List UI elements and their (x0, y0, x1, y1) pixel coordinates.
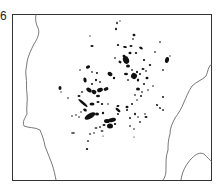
cluster-patch (152, 85, 154, 87)
cluster-patch (87, 140, 89, 142)
cluster-patch (114, 123, 116, 125)
cluster-patch (141, 91, 143, 93)
cluster-patch (136, 99, 138, 101)
cluster-patch (91, 71, 93, 73)
cluster-patch (115, 28, 117, 31)
cluster-patch (80, 111, 82, 113)
cluster-patch (143, 59, 145, 61)
cluster-patch (79, 69, 81, 71)
cluster-patch (132, 33, 136, 36)
cluster-patch (96, 72, 98, 74)
cluster-patch (149, 64, 151, 66)
cluster-patch (116, 105, 120, 108)
cluster-patch (97, 101, 100, 103)
cluster-patch (162, 96, 164, 98)
cluster-patch (102, 112, 104, 114)
cluster-patch (123, 46, 127, 49)
cluster-patch (124, 73, 128, 75)
cluster-patch (143, 83, 145, 85)
cluster-patch (91, 89, 97, 94)
cluster-patch (127, 79, 129, 81)
cluster-patch (81, 91, 83, 93)
map (0, 0, 217, 185)
cluster-patch (96, 95, 100, 98)
cluster-patch (169, 55, 170, 56)
cluster-patch (126, 65, 130, 68)
cluster-patch (145, 116, 148, 118)
cluster-patch (117, 113, 119, 115)
cluster-patch (159, 107, 162, 109)
cluster-patch (142, 68, 145, 70)
cluster-patch (89, 35, 90, 37)
cluster-patch (67, 97, 69, 99)
cluster-patch (89, 133, 91, 135)
cluster-patch (90, 45, 93, 47)
cluster-patch (99, 81, 101, 83)
cluster-patch (115, 107, 121, 113)
cluster-patch (99, 126, 101, 128)
cluster-patch (83, 77, 87, 83)
cluster-patch (59, 86, 62, 90)
cluster-patch (101, 103, 103, 105)
cluster-patch (93, 132, 95, 133)
cluster-patch (144, 113, 146, 115)
cluster-patch (60, 91, 61, 93)
left-coastline (23, 14, 56, 180)
cluster-patch (131, 103, 133, 105)
cluster-patch (103, 124, 106, 126)
cluster-patch (78, 116, 80, 117)
cluster-patch (75, 114, 77, 115)
cluster-patch (136, 71, 138, 73)
cluster-patch (113, 77, 115, 79)
cluster-patch (130, 45, 133, 47)
cluster-patch (136, 88, 140, 91)
cluster-patch (101, 130, 104, 132)
cluster-patch (90, 103, 95, 106)
cluster-patch (154, 51, 156, 53)
cluster-patch (116, 22, 118, 24)
cluster-patch (95, 79, 97, 81)
cluster-patch (78, 95, 81, 97)
cluster-patch (131, 69, 133, 71)
cluster-patch (103, 87, 109, 92)
cluster-patch (126, 106, 129, 109)
cluster-patch (96, 87, 103, 93)
cluster-patch (118, 60, 122, 64)
cluster-patch (129, 117, 131, 119)
cluster-patch (129, 52, 132, 54)
cluster-patch (117, 44, 119, 46)
cluster-patch (162, 109, 164, 112)
cluster-patch (133, 128, 135, 129)
cluster-patch (107, 103, 109, 104)
bottom-right-coastline (181, 153, 212, 180)
cluster-patch (91, 83, 93, 85)
cluster-patch (129, 125, 131, 127)
cluster-patch (85, 87, 92, 94)
cluster-patch (156, 104, 159, 107)
right-coastline (163, 64, 212, 180)
cluster-patch (86, 148, 88, 150)
cluster-patch (133, 136, 134, 137)
cluster-patch (139, 121, 141, 123)
cluster-patch (135, 52, 137, 54)
cluster-patch (83, 108, 88, 112)
cluster-patch (139, 46, 144, 50)
cluster-patch (85, 65, 90, 69)
cluster-patch (114, 57, 116, 59)
cluster-patch (145, 70, 147, 72)
cluster-patch (107, 124, 113, 129)
cluster-patch (159, 41, 161, 42)
cluster-patch (134, 113, 136, 115)
cluster-patch (107, 71, 114, 77)
cluster-patch (162, 69, 164, 71)
cluster-patch (95, 113, 99, 116)
cluster-patch (146, 77, 149, 79)
cluster-patch (165, 57, 170, 64)
cluster-patch (147, 89, 149, 91)
cluster-patch (119, 20, 120, 22)
cluster-patch (137, 116, 139, 118)
map-frame (13, 15, 212, 181)
cluster-patch (78, 98, 89, 108)
cluster-patch (134, 94, 136, 96)
cluster-patch (137, 79, 139, 82)
